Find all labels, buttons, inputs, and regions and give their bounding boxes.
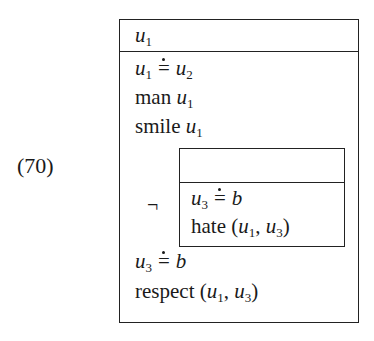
condition-equation-u1-u2: u1=u2 (135, 55, 193, 81)
drs-universe: u1 (120, 20, 358, 52)
dot-equal-icon: = (158, 55, 170, 81)
example-number: (70) (17, 153, 54, 179)
condition-equation-u3-b: u3=b (135, 248, 186, 274)
inner-condition-hate: hate (u1, u3) (191, 213, 290, 239)
condition-man: man u1 (135, 84, 193, 110)
universe-referent: u1 (135, 22, 152, 48)
dot-equal-icon: = (214, 185, 226, 211)
dot-equal-icon: = (158, 248, 170, 274)
outer-drs-box: u1 u1=u2 man u1 smile u1 ¬ u3=b hate (u1… (119, 19, 359, 323)
inner-condition-equation-u3-b: u3=b (191, 185, 242, 211)
inner-drs-universe (180, 149, 344, 183)
negation-icon: ¬ (147, 194, 158, 217)
inner-drs-box: u3=b hate (u1, u3) (179, 148, 345, 247)
condition-respect: respect (u1, u3) (135, 278, 258, 304)
condition-smile: smile u1 (135, 113, 203, 139)
